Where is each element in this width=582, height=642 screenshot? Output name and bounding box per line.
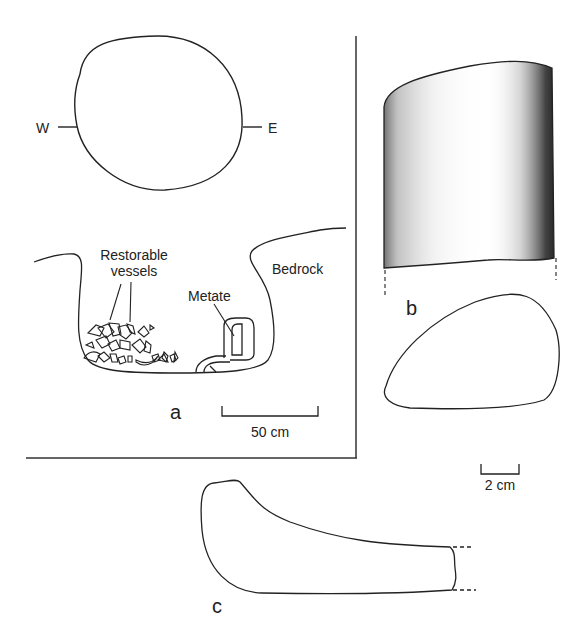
scale-bar-50cm (222, 406, 318, 416)
vessels-label-line1: Restorable (88, 248, 180, 262)
artifact-c-profile (201, 480, 476, 593)
vessels-leader-lines (110, 282, 131, 322)
east-label: E (268, 121, 277, 135)
west-label: W (36, 121, 49, 135)
scale-bar-2cm (481, 464, 519, 474)
figure-canvas (0, 0, 582, 642)
metate-label: Metate (188, 289, 231, 303)
scale-label-50cm: 50 cm (222, 425, 318, 439)
bedrock-label: Bedrock (272, 262, 323, 276)
artifact-b-elevation (384, 61, 556, 296)
pit-plan-view (58, 36, 262, 190)
panel-letter-a: a (170, 402, 181, 422)
panel-letter-c: c (212, 596, 222, 616)
vessel-fragments (84, 323, 178, 365)
metate-drawing (196, 318, 254, 372)
vessels-label-line2: vessels (88, 264, 180, 278)
panel-letter-b: b (406, 298, 417, 318)
scale-label-2cm: 2 cm (476, 478, 524, 492)
